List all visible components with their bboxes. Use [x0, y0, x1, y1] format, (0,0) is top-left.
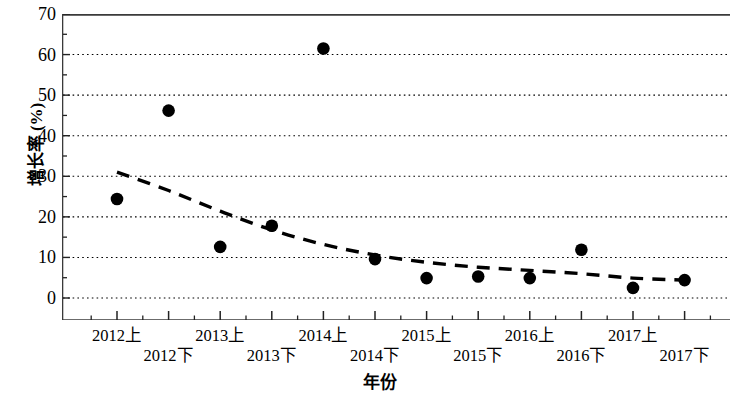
x-tick-label: 2013上	[195, 327, 245, 344]
x-tick-label: 2013下	[247, 347, 297, 364]
growth-rate-scatter-chart: 增长率 (%) 010203040506070 2012上2012下2013上2…	[0, 0, 730, 396]
x-tick-label: 2017下	[660, 347, 710, 364]
x-tick-label: 2015下	[453, 347, 503, 364]
x-tick-label: 2016上	[505, 327, 555, 344]
x-axis-title: 年份	[0, 368, 730, 393]
x-tick-label: 2017上	[608, 327, 658, 344]
x-axis-tick-labels: 2012上2012下2013上2013下2014上2014下2015上2015下…	[0, 0, 730, 396]
x-tick-label: 2014上	[298, 327, 348, 344]
x-tick-label: 2016下	[556, 347, 606, 364]
x-tick-label: 2012下	[144, 347, 194, 364]
x-tick-label: 2014下	[350, 347, 400, 364]
x-tick-label: 2012上	[92, 327, 142, 344]
x-tick-label: 2015上	[402, 327, 452, 344]
